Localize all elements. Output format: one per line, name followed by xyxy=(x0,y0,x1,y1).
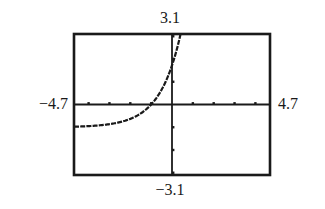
y-tick xyxy=(172,35,174,37)
x-tick xyxy=(192,102,194,104)
function-curve xyxy=(74,34,181,127)
x-tick xyxy=(233,102,235,104)
axes xyxy=(74,34,270,175)
x-tick xyxy=(254,102,256,104)
x-tick xyxy=(87,102,89,104)
x-tick xyxy=(213,102,215,104)
graph-window xyxy=(0,0,325,209)
x-tick xyxy=(129,102,131,104)
y-tick xyxy=(172,126,174,128)
x-tick xyxy=(108,102,110,104)
y-tick xyxy=(172,172,174,174)
y-tick xyxy=(172,149,174,151)
y-tick xyxy=(172,81,174,83)
